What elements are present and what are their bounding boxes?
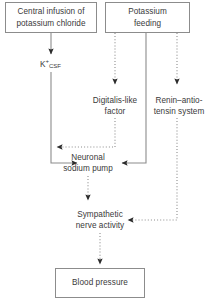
node-central-infusion-line2: potassium chloride <box>16 18 85 30</box>
edge-renin-to-sympathetic <box>128 118 177 220</box>
node-sympathetic-line2: nerve activity <box>76 220 124 232</box>
node-neuronal-sodium-pump: Neuronal sodium pump <box>55 150 121 176</box>
edge-digitalis-to-kcsf-line <box>57 118 115 147</box>
node-digitalis-line1: Digitalis-like <box>93 95 137 107</box>
node-k-csf: K+CSF <box>40 58 61 69</box>
node-digitalis-like-factor: Digitalis-like factor <box>83 93 147 119</box>
node-potassium-feeding: Potassium feeding <box>105 2 190 33</box>
node-sympathetic-line1: Sympathetic <box>76 209 124 221</box>
node-potassium-feeding-line1: Potassium <box>128 6 167 18</box>
node-renin-line2: tensin system <box>154 106 205 118</box>
node-potassium-feeding-text: Potassium feeding <box>128 6 167 29</box>
node-blood-pressure-label: Blood pressure <box>72 277 128 289</box>
node-sodium-pump-line2: sodium pump <box>63 163 113 175</box>
node-renin-line1: Renin–antio- <box>154 95 205 107</box>
diagram-canvas: Central infusion of potassium chloride P… <box>0 0 214 305</box>
node-sympathetic-nerve-activity: Sympathetic nerve activity <box>66 207 134 233</box>
node-central-infusion-text: Central infusion of potassium chloride <box>16 6 85 29</box>
node-potassium-feeding-line2: feeding <box>128 18 167 30</box>
node-digitalis-text: Digitalis-like factor <box>93 95 137 118</box>
node-central-infusion: Central infusion of potassium chloride <box>5 2 97 33</box>
node-central-infusion-line1: Central infusion of <box>16 6 85 18</box>
node-sympathetic-text: Sympathetic nerve activity <box>76 209 124 232</box>
node-sodium-pump-text: Neuronal sodium pump <box>63 152 113 175</box>
node-k-csf-subscript: CSF <box>49 63 61 69</box>
node-renin-angiotensin-system: Renin–antio- tensin system <box>146 93 212 119</box>
node-sodium-pump-line1: Neuronal <box>63 152 113 164</box>
node-digitalis-line2: factor <box>93 106 137 118</box>
node-renin-text: Renin–antio- tensin system <box>154 95 205 118</box>
node-blood-pressure: Blood pressure <box>55 268 145 298</box>
